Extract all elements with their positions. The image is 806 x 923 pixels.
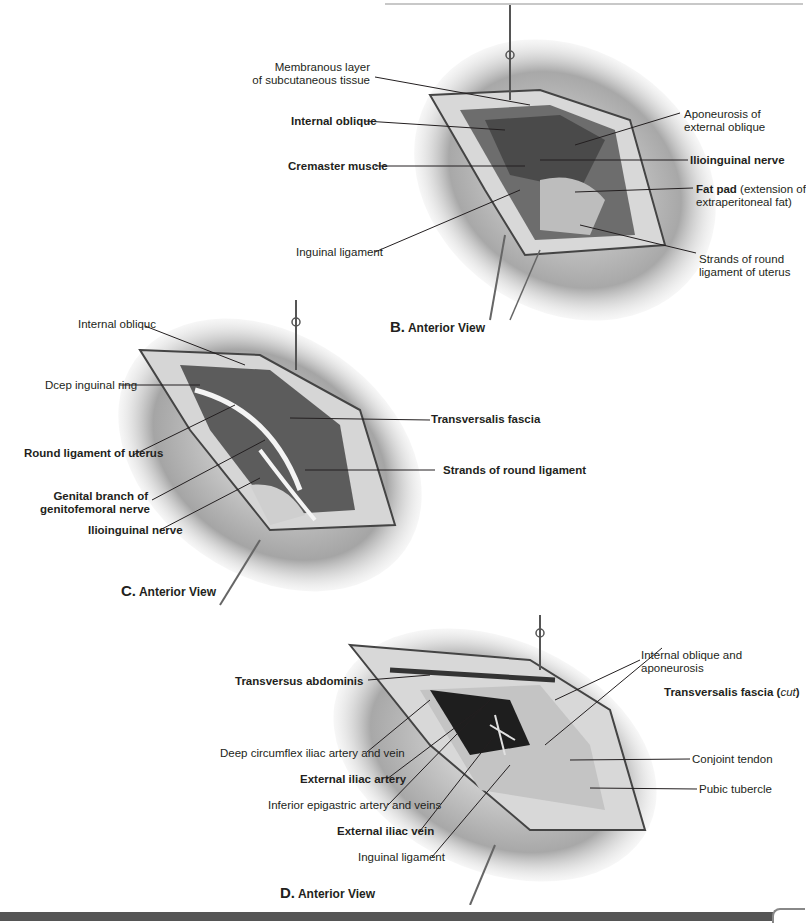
- label-aponeurosis-external-oblique: Aponeurosis of external oblique: [684, 108, 765, 134]
- label-deep-circumflex-iliac: Deep circumflex iliac artery and vein: [220, 747, 405, 760]
- label-ilioinguinal-nerve: Ilioinguinal nerve: [690, 154, 785, 167]
- figure-d-caption: D. Anterior View: [280, 884, 375, 901]
- page-bottom-bar: [0, 912, 775, 921]
- label-bold: Transversalis fascia: [664, 686, 773, 698]
- label-fat-pad: Fat pad (extension of extraperitoneal fa…: [696, 183, 806, 209]
- page-number-tab: [772, 908, 805, 923]
- label-round-ligament-uterus: Round ligament of uterus: [24, 447, 163, 460]
- label-transversalis-fascia: Transversalis fascia: [431, 413, 540, 426]
- label-bold: Fat pad: [696, 183, 737, 195]
- label-deep-inguinal-ring: Dcep inguinal ring: [45, 379, 137, 392]
- caption-letter: C.: [121, 582, 136, 599]
- caption-letter: D.: [280, 884, 295, 901]
- label-line-2: external oblique: [684, 121, 765, 134]
- caption-text: Anterior View: [298, 887, 375, 901]
- label-line-2: aponeurosis: [641, 662, 742, 675]
- label-line-2: ligament of uterus: [699, 266, 790, 279]
- label-ilioinguinal-nerve: Ilioinguinal nerve: [88, 524, 183, 537]
- label-internal-oblique: Internal oblique: [291, 115, 377, 128]
- figure-c-caption: C. Anterior View: [121, 582, 216, 599]
- label-inferior-epigastric: Inferior epigastric artery and veins: [268, 799, 441, 812]
- label-line-1: Aponeurosis of: [684, 108, 765, 121]
- label-cremaster-muscle: Cremaster muscle: [288, 160, 388, 173]
- label-inguinal-ligament: Inguinal ligament: [358, 851, 445, 864]
- label-transversus-abdominis: Transversus abdominis: [235, 675, 363, 688]
- label-strands-round-ligament: Strands of round ligament: [443, 464, 586, 477]
- caption-letter: B.: [390, 318, 405, 335]
- label-internal-oblique-aponeurosis: Internal oblique and aponeurosis: [641, 649, 742, 675]
- caption-text: Anterior View: [139, 585, 216, 599]
- label-pubic-tubercle: Pubic tubercle: [699, 783, 772, 796]
- label-external-iliac-vein: External iliac vein: [337, 825, 434, 838]
- label-italic: cut: [780, 686, 795, 698]
- label-line-2: genitofemoral nerve: [40, 503, 148, 516]
- label-line-1: Strands of round: [699, 253, 790, 266]
- label-line-1: Membranous layer: [220, 61, 370, 74]
- label-membranous-layer: Membranous layer of subcutaneous tissue: [220, 61, 370, 87]
- label-internal-oblique: Internal obliquc: [78, 318, 156, 331]
- label-line-2: of subcutaneous tissue: [220, 74, 370, 87]
- label-genital-branch: Genital branch of genitofemoral nerve: [40, 490, 148, 516]
- label-line-2: extraperitoneal fat): [696, 196, 806, 209]
- label-transversalis-fascia-cut: Transversalis fascia (cut): [664, 686, 800, 699]
- label-line-1: Internal oblique and: [641, 649, 742, 662]
- label-rest: (extension of: [737, 183, 806, 195]
- label-line-1: Genital branch of: [40, 490, 148, 503]
- caption-text: Anterior View: [408, 321, 485, 335]
- label-conjoint-tendon: Conjoint tendon: [692, 753, 773, 766]
- label-external-iliac-artery: External iliac artery: [300, 773, 406, 786]
- label-inguinal-ligament: Inguinal ligament: [296, 246, 383, 259]
- figure-b-illustration: [390, 0, 720, 330]
- figure-b-caption: B. Anterior View: [390, 318, 485, 335]
- label-strands-round-ligament: Strands of round ligament of uterus: [699, 253, 790, 279]
